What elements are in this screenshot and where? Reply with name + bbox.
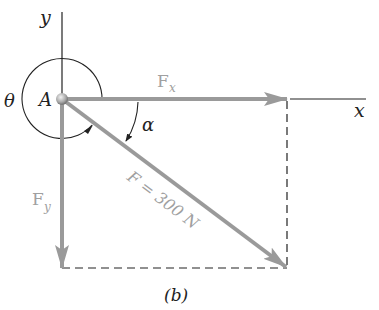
f-arrow bbox=[62, 99, 286, 267]
y-axis-label: y bbox=[39, 6, 51, 28]
point-a-label: A bbox=[37, 89, 52, 110]
svg-text:y: y bbox=[43, 200, 51, 214]
svg-text:F: F bbox=[157, 71, 169, 91]
force-diagram: y x θ A α F x F y F = 300 N (b) bbox=[0, 0, 379, 310]
fx-label: F x bbox=[157, 71, 176, 95]
point-a-marker bbox=[56, 93, 68, 105]
alpha-label: α bbox=[142, 114, 154, 135]
x-axis-label: x bbox=[354, 99, 365, 121]
figure-caption: (b) bbox=[164, 285, 188, 305]
fy-label: F y bbox=[32, 189, 51, 214]
theta-arrowhead-icon bbox=[84, 125, 93, 134]
svg-text:F: F bbox=[32, 189, 44, 209]
svg-text:x: x bbox=[169, 81, 176, 95]
theta-label: θ bbox=[4, 90, 15, 111]
alpha-arc bbox=[126, 102, 138, 141]
